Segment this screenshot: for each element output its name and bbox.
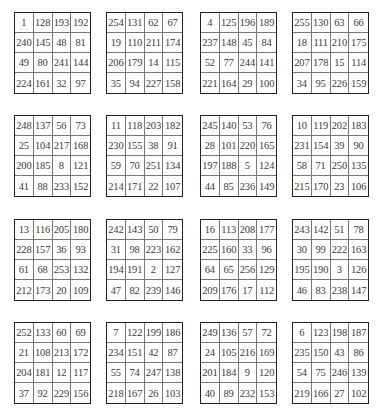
square-cell: 30 bbox=[293, 240, 312, 260]
square-cell: 78 bbox=[349, 220, 368, 240]
square-cell: 250 bbox=[331, 156, 350, 176]
square-cell: 36 bbox=[53, 240, 72, 260]
square-cell: 99 bbox=[312, 240, 331, 260]
square-cell: 189 bbox=[257, 13, 276, 33]
square-cell: 53 bbox=[239, 116, 258, 136]
square-cell: 98 bbox=[126, 240, 145, 260]
square-cell: 60 bbox=[53, 323, 72, 343]
square-cell: 57 bbox=[239, 323, 258, 343]
square-cell: 152 bbox=[71, 176, 90, 196]
number-square: 1611320817722516033966465256129209176171… bbox=[200, 219, 277, 301]
square-cell: 10 bbox=[293, 116, 312, 136]
square-cell: 25 bbox=[15, 136, 34, 156]
square-cell: 58 bbox=[293, 156, 312, 176]
number-square: 1011920218323115439905871250135215170231… bbox=[292, 115, 369, 197]
square-cell: 45 bbox=[239, 33, 258, 53]
square-cell: 223 bbox=[145, 240, 164, 260]
square-cell: 161 bbox=[34, 73, 53, 93]
number-square: 2491365772241052161692011849120408923215… bbox=[200, 322, 277, 404]
square-cell: 42 bbox=[145, 343, 164, 363]
square-cell: 69 bbox=[71, 323, 90, 343]
square-cell: 94 bbox=[126, 73, 145, 93]
square-cell: 172 bbox=[71, 343, 90, 363]
square-cell: 238 bbox=[331, 280, 350, 300]
square-cell: 27 bbox=[331, 383, 350, 403]
square-cell: 9 bbox=[239, 363, 258, 383]
square-cell: 59 bbox=[107, 156, 126, 176]
square-cell: 227 bbox=[145, 73, 164, 93]
square-cell: 173 bbox=[34, 280, 53, 300]
square-cell: 109 bbox=[71, 280, 90, 300]
square-cell: 199 bbox=[145, 323, 164, 343]
square-cell: 97 bbox=[71, 73, 90, 93]
square-cell: 41 bbox=[15, 176, 34, 196]
square-cell: 40 bbox=[201, 383, 220, 403]
square-cell: 35 bbox=[107, 73, 126, 93]
square-cell: 38 bbox=[145, 136, 164, 156]
square-cell: 249 bbox=[201, 323, 220, 343]
square-cell: 12 bbox=[53, 363, 72, 383]
square-cell: 138 bbox=[163, 363, 182, 383]
square-cell: 17 bbox=[239, 280, 258, 300]
square-cell: 229 bbox=[53, 383, 72, 403]
square-cell: 74 bbox=[126, 363, 145, 383]
square-cell: 239 bbox=[145, 280, 164, 300]
square-cell: 119 bbox=[312, 116, 331, 136]
square-cell: 241 bbox=[53, 53, 72, 73]
square-cell: 181 bbox=[34, 363, 53, 383]
square-cell: 5 bbox=[239, 156, 258, 176]
square-cell: 115 bbox=[163, 53, 182, 73]
square-cell: 175 bbox=[349, 33, 368, 53]
square-cell: 154 bbox=[312, 136, 331, 156]
square-cell: 106 bbox=[349, 176, 368, 196]
square-cell: 31 bbox=[107, 240, 126, 260]
square-cell: 24 bbox=[201, 343, 220, 363]
square-cell: 158 bbox=[163, 73, 182, 93]
square-cell: 228 bbox=[15, 240, 34, 260]
square-cell: 150 bbox=[312, 343, 331, 363]
square-cell: 22 bbox=[145, 176, 164, 196]
square-cell: 51 bbox=[331, 220, 350, 240]
square-cell: 26 bbox=[145, 383, 164, 403]
square-cell: 243 bbox=[293, 220, 312, 240]
square-cell: 170 bbox=[312, 176, 331, 196]
square-cell: 84 bbox=[257, 33, 276, 53]
square-cell: 131 bbox=[126, 13, 145, 33]
square-cell: 104 bbox=[34, 136, 53, 156]
square-cell: 1 bbox=[15, 13, 34, 33]
square-cell: 221 bbox=[201, 73, 220, 93]
square-cell: 56 bbox=[53, 116, 72, 136]
square-cell: 139 bbox=[349, 363, 368, 383]
number-square: 1128193192240145488149802411442241613297 bbox=[14, 12, 91, 94]
square-cell: 146 bbox=[163, 280, 182, 300]
square-cell: 216 bbox=[239, 343, 258, 363]
square-cell: 133 bbox=[34, 323, 53, 343]
square-cell: 168 bbox=[71, 136, 90, 156]
square-cell: 256 bbox=[239, 260, 258, 280]
square-cell: 103 bbox=[163, 383, 182, 403]
square-cell: 253 bbox=[53, 260, 72, 280]
square-cell: 219 bbox=[293, 383, 312, 403]
square-cell: 166 bbox=[312, 383, 331, 403]
square-cell: 81 bbox=[71, 33, 90, 53]
square-cell: 19 bbox=[107, 33, 126, 53]
square-cell: 112 bbox=[257, 280, 276, 300]
square-cell: 125 bbox=[220, 13, 239, 33]
square-cell: 96 bbox=[257, 240, 276, 260]
square-cell: 88 bbox=[34, 176, 53, 196]
square-cell: 18 bbox=[293, 33, 312, 53]
square-cell: 143 bbox=[126, 220, 145, 240]
square-cell: 132 bbox=[71, 260, 90, 280]
square-cell: 100 bbox=[257, 73, 276, 93]
square-cell: 55 bbox=[107, 363, 126, 383]
square-cell: 203 bbox=[145, 116, 164, 136]
number-square: 2481375673251042171682001858121418823315… bbox=[14, 115, 91, 197]
square-cell: 101 bbox=[220, 136, 239, 156]
square-cell: 28 bbox=[201, 136, 220, 156]
square-cell: 225 bbox=[201, 240, 220, 260]
square-cell: 43 bbox=[331, 343, 350, 363]
square-cell: 120 bbox=[257, 363, 276, 383]
square-cell: 110 bbox=[126, 33, 145, 53]
square-cell: 70 bbox=[126, 156, 145, 176]
square-cell: 2 bbox=[145, 260, 164, 280]
